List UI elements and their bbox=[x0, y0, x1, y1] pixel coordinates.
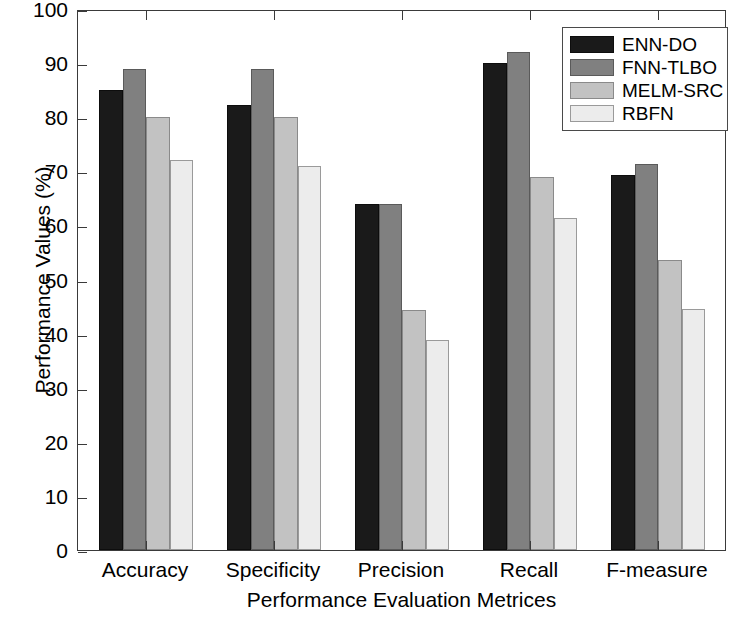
legend-item-rbfn: RBFN bbox=[570, 102, 721, 125]
x-axis-tick-mark-top bbox=[274, 11, 275, 20]
bar-recall-fnn-tlbo bbox=[507, 52, 531, 550]
y-axis-tick-mark bbox=[78, 444, 87, 445]
legend-item-melm-src: MELM-SRC bbox=[570, 79, 721, 102]
x-axis-tick-mark-top bbox=[530, 11, 531, 20]
bar-recall-rbfn bbox=[554, 218, 578, 550]
bar-f-measure-fnn-tlbo bbox=[635, 164, 659, 550]
x-axis-tick-mark-top bbox=[658, 11, 659, 20]
y-axis-tick-mark bbox=[78, 11, 87, 12]
bar-precision-fnn-tlbo bbox=[379, 204, 403, 550]
y-axis-tick-label: 10 bbox=[10, 485, 68, 509]
x-axis-tick-mark-bottom bbox=[658, 541, 659, 550]
y-axis-tick-mark bbox=[78, 552, 87, 553]
legend-swatch-icon bbox=[570, 105, 614, 122]
bar-specificity-melm-src bbox=[274, 117, 298, 550]
y-axis-tick-label: 20 bbox=[10, 431, 68, 455]
bar-accuracy-melm-src bbox=[146, 117, 170, 550]
y-axis-tick-mark bbox=[78, 227, 87, 228]
legend-swatch-icon bbox=[570, 59, 614, 76]
y-axis-tick-label: 30 bbox=[10, 377, 68, 401]
bar-recall-melm-src bbox=[530, 177, 554, 550]
y-axis-tick-mark bbox=[78, 173, 87, 174]
x-axis-tick-mark-bottom bbox=[402, 541, 403, 550]
legend-label: ENN-DO bbox=[622, 34, 697, 56]
x-axis-tick-label-accuracy: Accuracy bbox=[102, 558, 188, 582]
x-axis-tick-mark-top bbox=[402, 11, 403, 20]
x-axis-tick-mark-top bbox=[146, 11, 147, 20]
bar-precision-melm-src bbox=[402, 310, 426, 550]
x-axis-tick-label-recall: Recall bbox=[500, 558, 558, 582]
x-axis-tick-mark-bottom bbox=[146, 541, 147, 550]
y-axis-tick-mark bbox=[78, 336, 87, 337]
bar-specificity-enn-do bbox=[227, 105, 251, 550]
bar-recall-enn-do bbox=[483, 63, 507, 550]
legend-label: MELM-SRC bbox=[622, 80, 723, 102]
y-axis-tick-label: 100 bbox=[10, 0, 68, 22]
legend-item-fnn-tlbo: FNN-TLBO bbox=[570, 56, 721, 79]
bar-precision-enn-do bbox=[355, 204, 379, 550]
legend-label: FNN-TLBO bbox=[622, 57, 717, 79]
legend-item-enn-do: ENN-DO bbox=[570, 33, 721, 56]
y-axis-tick-label: 50 bbox=[10, 269, 68, 293]
y-axis-tick-label: 70 bbox=[10, 160, 68, 184]
x-axis-tick-mark-bottom bbox=[274, 541, 275, 550]
y-axis-tick-labels: 0102030405060708090100 bbox=[8, 0, 68, 617]
y-axis-tick-label: 80 bbox=[10, 106, 68, 130]
bar-f-measure-melm-src bbox=[658, 260, 682, 550]
bar-f-measure-enn-do bbox=[611, 175, 635, 550]
x-axis-tick-label-f-measure: F-measure bbox=[606, 558, 708, 582]
y-axis-tick-label: 60 bbox=[10, 214, 68, 238]
x-axis-title: Performance Evaluation Metrices bbox=[77, 588, 726, 612]
bar-accuracy-fnn-tlbo bbox=[123, 69, 147, 550]
x-axis-tick-label-precision: Precision bbox=[358, 558, 444, 582]
bar-precision-rbfn bbox=[426, 340, 450, 550]
y-axis-tick-label: 90 bbox=[10, 52, 68, 76]
y-axis-tick-mark bbox=[78, 65, 87, 66]
bar-accuracy-rbfn bbox=[170, 160, 194, 550]
y-axis-tick-label: 0 bbox=[10, 539, 68, 563]
legend-label: RBFN bbox=[622, 103, 674, 125]
bar-specificity-rbfn bbox=[298, 166, 322, 550]
y-axis-tick-mark bbox=[78, 390, 87, 391]
bar-f-measure-rbfn bbox=[682, 309, 706, 550]
y-axis-tick-mark bbox=[78, 119, 87, 120]
bar-chart-figure: Performance Values (%) 01020304050607080… bbox=[0, 0, 736, 617]
x-axis-tick-labels: AccuracySpecificityPrecisionRecallF-meas… bbox=[77, 558, 726, 590]
bar-specificity-fnn-tlbo bbox=[251, 69, 275, 550]
y-axis-tick-mark bbox=[78, 498, 87, 499]
x-axis-tick-mark-bottom bbox=[530, 541, 531, 550]
x-axis-tick-label-specificity: Specificity bbox=[226, 558, 321, 582]
y-axis-tick-mark bbox=[78, 282, 87, 283]
legend-swatch-icon bbox=[570, 82, 614, 99]
y-axis-tick-label: 40 bbox=[10, 323, 68, 347]
chart-legend: ENN-DOFNN-TLBOMELM-SRCRBFN bbox=[562, 27, 728, 131]
bar-accuracy-enn-do bbox=[99, 90, 123, 550]
legend-swatch-icon bbox=[570, 36, 614, 53]
